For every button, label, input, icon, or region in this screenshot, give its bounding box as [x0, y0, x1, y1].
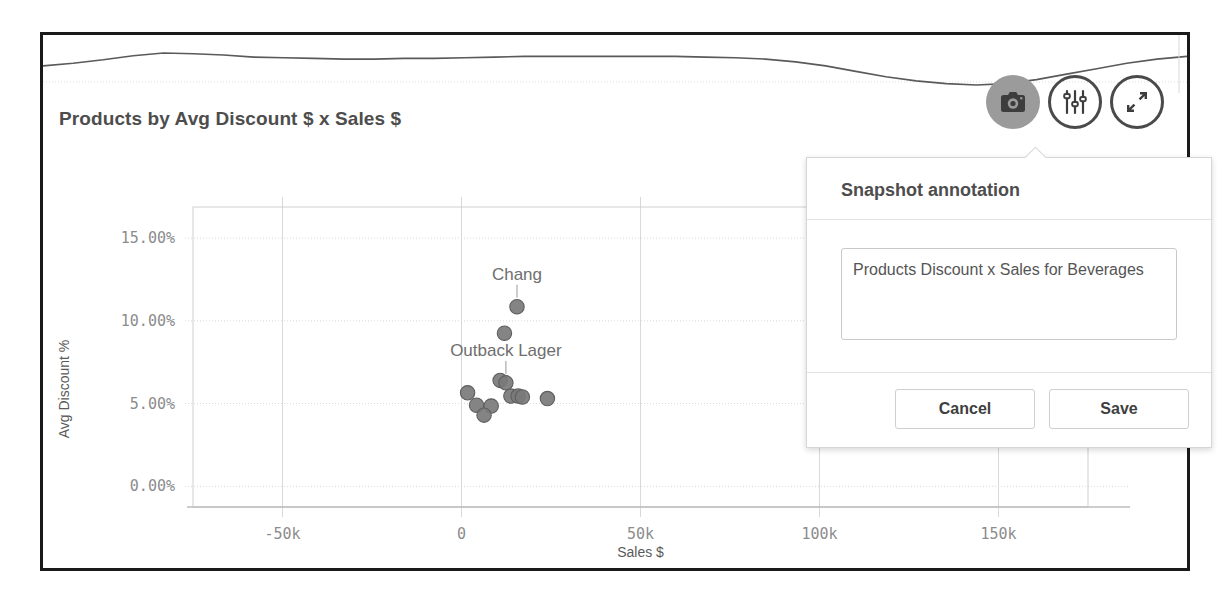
chart-panel: Products by Avg Discount $ x Sales $ 0.0…	[40, 32, 1190, 571]
x-tick-label: -50k	[264, 525, 300, 543]
cancel-button[interactable]: Cancel	[895, 389, 1035, 429]
dialog-title: Snapshot annotation	[841, 180, 1177, 201]
annotation-textarea[interactable]	[841, 248, 1177, 340]
camera-icon	[1000, 91, 1026, 113]
screenshot-root: Products by Avg Discount $ x Sales $ 0.0…	[0, 0, 1221, 602]
y-tick-label: 15.00%	[121, 229, 175, 247]
y-axis-ticks: 0.00%5.00%10.00%15.00%	[121, 229, 175, 495]
dialog-header: Snapshot annotation	[807, 158, 1211, 220]
scatter-point[interactable]	[497, 326, 511, 340]
data-points	[460, 300, 554, 423]
scatter-point[interactable]	[477, 408, 491, 422]
chart-title: Products by Avg Discount $ x Sales $	[59, 108, 401, 130]
x-tick-label: 150k	[980, 525, 1016, 543]
scatter-point[interactable]	[515, 390, 529, 404]
scatter-point[interactable]	[499, 376, 513, 390]
x-axis-title: Sales $	[617, 544, 664, 560]
y-tick-label: 5.00%	[130, 395, 175, 413]
x-axis-ticks: -50k050k100k150k	[264, 525, 1016, 543]
settings-button[interactable]	[1048, 75, 1102, 129]
point-labels: ChangOutback Lager	[450, 265, 562, 374]
sliders-icon	[1062, 88, 1088, 116]
point-label: Outback Lager	[450, 341, 562, 360]
y-tick-label: 0.00%	[130, 477, 175, 495]
scatter-point[interactable]	[540, 391, 554, 405]
x-tick-label: 0	[457, 525, 466, 543]
save-button[interactable]: Save	[1049, 389, 1189, 429]
dialog-footer: Cancel Save	[807, 373, 1211, 447]
x-tick-label: 100k	[801, 525, 837, 543]
expand-arrows-icon	[1124, 89, 1150, 115]
scatter-point[interactable]	[510, 300, 524, 314]
point-label: Chang	[492, 265, 542, 284]
scatter-point[interactable]	[460, 386, 474, 400]
chart-toolbar	[986, 75, 1164, 129]
x-tick-label: 50k	[627, 525, 654, 543]
snapshot-button[interactable]	[986, 75, 1040, 129]
y-axis-title: Avg Discount %	[56, 340, 72, 439]
dialog-body	[807, 220, 1211, 373]
expand-button[interactable]	[1110, 75, 1164, 129]
popover-caret	[1025, 147, 1047, 158]
y-tick-label: 10.00%	[121, 312, 175, 330]
snapshot-annotation-dialog: Snapshot annotation Cancel Save	[806, 157, 1212, 448]
